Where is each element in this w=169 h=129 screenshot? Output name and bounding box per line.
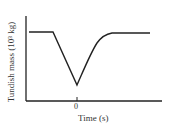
chart-canvas xyxy=(0,0,169,129)
x-axis-label: Time (s) xyxy=(78,113,108,123)
x-tick-label: 0 xyxy=(74,102,78,111)
tundish-mass-curve xyxy=(29,32,150,85)
y-axis-label: Tundish mass (10³ kg) xyxy=(6,17,18,107)
